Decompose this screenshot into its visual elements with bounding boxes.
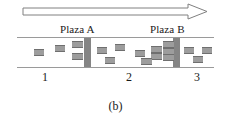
- vehicle: [202, 47, 212, 54]
- vehicle: [34, 49, 44, 56]
- vehicle: [115, 44, 125, 51]
- plaza-b-barrier: [173, 38, 180, 67]
- traffic-plaza-diagram: Plaza A Plaza B 1 2 3 (b): [0, 0, 231, 129]
- vehicle: [184, 47, 194, 54]
- vehicle: [151, 53, 162, 60]
- plaza-b-label: Plaza B: [150, 23, 185, 35]
- road-edge-bottom: [17, 67, 214, 68]
- figure-caption: (b): [0, 99, 231, 113]
- vehicle: [163, 54, 174, 61]
- vehicle: [72, 53, 83, 60]
- flow-direction-arrow: [22, 3, 208, 20]
- segment-label-1: 1: [38, 71, 52, 84]
- vehicle: [193, 56, 203, 63]
- vehicle: [55, 45, 65, 52]
- vehicle: [141, 58, 152, 65]
- segment-label-3: 3: [190, 71, 204, 84]
- plaza-a-label: Plaza A: [60, 23, 95, 35]
- plaza-a-barrier: [84, 38, 91, 67]
- vehicle: [151, 46, 162, 53]
- roadway: [17, 37, 214, 68]
- vehicle: [163, 41, 174, 48]
- vehicle: [97, 47, 107, 54]
- segment-label-2: 2: [122, 71, 136, 84]
- vehicle: [72, 41, 83, 48]
- vehicle: [135, 50, 145, 57]
- road-edge-top: [17, 37, 214, 38]
- vehicle: [105, 57, 115, 64]
